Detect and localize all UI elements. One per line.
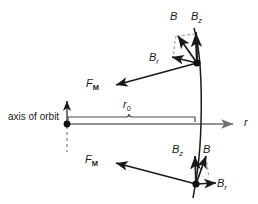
bottom-vector-group: [116, 156, 216, 188]
top-Br-label-sub: r: [156, 57, 159, 66]
top-FM-label-main: F: [86, 77, 93, 89]
bottom-FM-label-sub: M: [92, 159, 98, 168]
top-dashed-left: [173, 36, 176, 57]
top-Bz-vector: [196, 33, 197, 63]
r0-brace-path: [68, 114, 195, 122]
bottom-FM-vector: [116, 163, 196, 184]
bottom-dashed-right: [206, 157, 209, 178]
figure-canvas: B Bz Br FM axis of orbit r0 r Bz B Br FM: [0, 0, 258, 204]
top-Br-label: Br: [149, 52, 159, 66]
origin-dot: [64, 121, 71, 128]
r0-brace: [68, 114, 195, 122]
bottom-Bz-label: Bz: [172, 144, 183, 158]
bottom-particle-dot: [192, 180, 199, 187]
top-B-label: B: [170, 11, 177, 22]
bottom-B-label: B: [203, 144, 210, 155]
top-FM-label: FM: [86, 78, 99, 92]
bottom-Br-label-sub: r: [224, 183, 227, 192]
axis-of-orbit-label: axis of orbit: [8, 112, 59, 122]
r0-label: r0: [123, 99, 131, 113]
top-dashed-top: [177, 34, 196, 36]
top-particle-dot: [193, 59, 200, 66]
top-FM-label-sub: M: [93, 83, 99, 92]
bottom-Br-label: Br: [217, 178, 227, 192]
top-Bz-label: Bz: [191, 11, 202, 25]
top-FM-vector: [116, 63, 197, 85]
top-Bz-label-sub: z: [198, 16, 202, 25]
bottom-Bz-vector: [195, 156, 196, 184]
bottom-Bz-label-sub: z: [179, 149, 183, 158]
bottom-FM-label: FM: [85, 154, 98, 168]
bottom-FM-label-main: F: [85, 153, 92, 165]
r0-label-sub: 0: [127, 104, 131, 113]
r-axis-label: r: [244, 117, 248, 128]
